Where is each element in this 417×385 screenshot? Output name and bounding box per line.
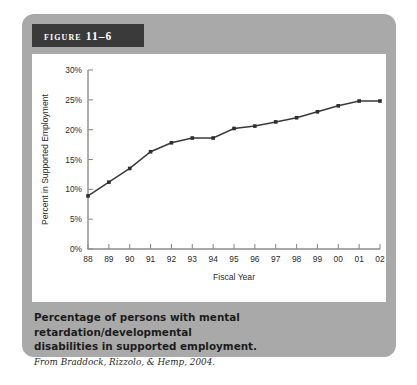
line-chart: 0%5%10%15%20%25%30% 88899091929394959697… bbox=[32, 54, 386, 302]
y-tick-label: 10% bbox=[65, 184, 82, 194]
y-axis-title: Percent in Supported Employment bbox=[40, 93, 50, 224]
x-tick-label: 00 bbox=[334, 254, 344, 264]
data-point-marker bbox=[170, 141, 174, 145]
y-tick-label: 15% bbox=[65, 155, 82, 165]
axis-lines bbox=[88, 70, 380, 249]
figure-banner: Figure 11–6 bbox=[32, 24, 144, 47]
x-axis-ticks: 888990919293949596979899000102 bbox=[83, 244, 385, 264]
data-point-marker bbox=[274, 120, 278, 124]
chart-container: 0%5%10%15%20%25%30% 88899091929394959697… bbox=[32, 54, 386, 302]
x-tick-label: 89 bbox=[104, 254, 114, 264]
x-tick-label: 95 bbox=[229, 254, 239, 264]
x-tick-label: 02 bbox=[375, 254, 385, 264]
y-tick-label: 5% bbox=[70, 214, 83, 224]
y-tick-label: 25% bbox=[65, 95, 82, 105]
data-point-marker bbox=[128, 167, 132, 171]
data-point-marker bbox=[316, 110, 320, 114]
x-tick-label: 98 bbox=[292, 254, 302, 264]
x-tick-label: 90 bbox=[125, 254, 135, 264]
data-point-marker bbox=[86, 194, 90, 198]
x-axis-title: Fiscal Year bbox=[213, 272, 255, 282]
data-point-marker bbox=[149, 150, 153, 154]
figure-number-label: Figure 11–6 bbox=[44, 30, 112, 42]
y-tick-label: 0% bbox=[70, 244, 83, 254]
x-tick-label: 01 bbox=[354, 254, 364, 264]
x-tick-label: 96 bbox=[250, 254, 260, 264]
data-point-marker bbox=[232, 127, 236, 131]
figure-panel: Figure 11–6 0%5%10%15%20%25%30% 88899091… bbox=[22, 14, 396, 357]
data-series-line bbox=[88, 101, 380, 196]
y-tick-label: 20% bbox=[65, 125, 82, 135]
x-tick-label: 93 bbox=[188, 254, 198, 264]
x-tick-label: 94 bbox=[208, 254, 218, 264]
data-point-marker bbox=[336, 104, 340, 108]
x-tick-label: 92 bbox=[167, 254, 177, 264]
caption-source: From Braddock, Rizzolo, & Hemp, 2004. bbox=[34, 357, 384, 367]
y-tick-label: 30% bbox=[65, 65, 82, 75]
data-point-marker bbox=[295, 116, 299, 120]
y-axis-ticks: 0%5%10%15%20%25%30% bbox=[65, 65, 93, 254]
data-point-marker bbox=[253, 124, 257, 128]
data-point-marker bbox=[378, 99, 382, 103]
data-point-marker bbox=[107, 180, 111, 184]
data-point-marker bbox=[190, 136, 194, 140]
x-tick-label: 97 bbox=[271, 254, 281, 264]
x-tick-label: 88 bbox=[83, 254, 93, 264]
caption-line-2: disabilities in supported employment. bbox=[34, 339, 384, 354]
data-point-marker bbox=[357, 99, 361, 103]
x-tick-label: 99 bbox=[313, 254, 323, 264]
data-point-marker bbox=[211, 136, 215, 140]
x-tick-label: 91 bbox=[146, 254, 156, 264]
data-series-markers bbox=[86, 99, 382, 197]
figure-caption: Percentage of persons with mental retard… bbox=[34, 310, 384, 367]
caption-line-1: Percentage of persons with mental retard… bbox=[34, 310, 384, 339]
